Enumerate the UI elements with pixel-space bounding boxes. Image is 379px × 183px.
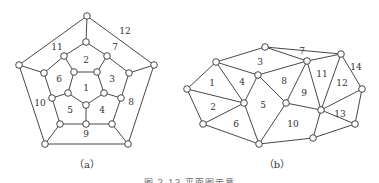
figure-canvas: 123456789101112 （a） 1234567891011121314 … [0, 0, 379, 183]
graph-vertex [94, 69, 101, 76]
graph-edge [216, 62, 258, 75]
graph-edge [129, 65, 154, 73]
graph-vertex [283, 100, 290, 107]
face-label: 9 [83, 129, 89, 139]
graph-b-nodes [184, 44, 366, 148]
face-label: 12 [119, 26, 130, 36]
graph-edge [121, 73, 129, 98]
graph-edge [112, 98, 121, 124]
graph-vertex [200, 121, 207, 128]
graph-edge [44, 73, 52, 98]
graph-edge [64, 42, 86, 56]
face-label: 6 [233, 119, 239, 129]
face-label: 11 [51, 42, 62, 52]
graph-vertex [101, 90, 108, 97]
face-label: 3 [109, 74, 115, 84]
graph-edge [44, 56, 64, 73]
face-label: 10 [34, 98, 46, 108]
face-label: 12 [336, 78, 347, 88]
face-label: 13 [334, 109, 346, 119]
graph-edge [45, 124, 60, 144]
face-label: 10 [287, 119, 299, 129]
graph-vertex [104, 53, 111, 60]
graph-vertex [57, 121, 64, 128]
graph-edge [307, 54, 341, 61]
graph-edge [244, 103, 259, 144]
face-label: 5 [67, 105, 73, 115]
graph-edge [286, 103, 321, 110]
graph-vertex [84, 13, 91, 20]
graph-edge [112, 124, 128, 144]
graph-vertex [41, 70, 48, 77]
graph-vertex [338, 51, 345, 58]
graph-vertex [125, 141, 132, 148]
graph-edge [19, 65, 44, 73]
face-label: 1 [83, 83, 89, 93]
graph-edge [86, 16, 87, 42]
graph-vertex [184, 86, 191, 93]
graph-vertex [262, 44, 269, 51]
graph-edge [87, 16, 154, 65]
graph-edge [259, 138, 313, 144]
graph-vertex [65, 90, 72, 97]
graph-edge [203, 124, 259, 144]
graph-vertex [310, 135, 317, 142]
graph-vertex [256, 141, 263, 148]
face-label: 6 [56, 74, 62, 84]
graph-vertex [318, 107, 325, 114]
face-label: 5 [260, 100, 266, 110]
graph-vertex [126, 70, 133, 77]
face-label: 2 [210, 102, 216, 112]
graph-vertex [151, 62, 158, 69]
graph-vertex [352, 121, 359, 128]
graph-vertex [241, 100, 248, 107]
face-label: 14 [350, 62, 362, 72]
graph-vertex [359, 86, 366, 93]
graph-edge [19, 16, 87, 65]
face-label: 4 [99, 105, 105, 115]
graph-vertex [49, 95, 56, 102]
graph-vertex [83, 121, 90, 128]
graph-vertex [16, 62, 23, 69]
graph-a-caption: （a） [74, 159, 100, 170]
graph-edge [313, 124, 355, 138]
graph-vertex [71, 69, 78, 76]
graph-vertex [83, 39, 90, 46]
face-label: 2 [83, 55, 89, 65]
face-label: 8 [128, 97, 134, 107]
graph-edge [313, 110, 321, 138]
graph-vertex [304, 58, 311, 65]
graph-edge [86, 42, 107, 56]
graph-vertex [213, 59, 220, 66]
face-label: 1 [209, 78, 215, 88]
graph-edge [244, 75, 258, 103]
face-label: 4 [239, 77, 245, 87]
graph-edge [258, 61, 307, 75]
graph-b-caption: （b） [264, 159, 290, 170]
graph-edge [187, 89, 203, 124]
face-label: 3 [257, 57, 263, 67]
graph-vertex [83, 102, 90, 109]
face-label: 11 [316, 69, 327, 79]
face-label: 7 [112, 42, 118, 52]
face-label: 8 [281, 76, 287, 86]
graph-a: 123456789101112 （a） [16, 13, 158, 170]
graph-edge [52, 98, 60, 124]
graph-edge [355, 89, 362, 124]
graph-edge [107, 56, 129, 73]
graph-vertex [61, 53, 68, 60]
graph-vertex [109, 121, 116, 128]
graph-vertex [118, 95, 125, 102]
figure-caption: 图 3.13 平面图示意 [0, 176, 379, 183]
face-label: 9 [301, 88, 307, 98]
graph-vertex [42, 141, 49, 148]
graph-b: 1234567891011121314 （b） [184, 44, 366, 170]
face-label: 7 [299, 46, 305, 56]
graph-vertex [255, 72, 262, 79]
